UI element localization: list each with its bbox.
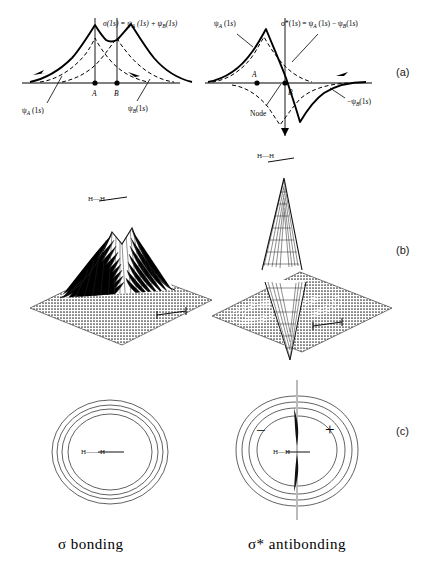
psi-a-label-right: ψA (1s) [214,19,236,29]
hh-label-bonding-b: H—H [88,195,105,203]
arrow-left-marker [33,70,46,75]
row-a-panel: σ(1s) = ψA (1s) + ψB(1s) A B ψA (1s) ψB(… [0,0,429,140]
nucleus-b-label: B [114,89,119,98]
nucleus-a-label: A [91,89,97,98]
row-c-panel [0,380,429,520]
arrow-right-marker-2 [336,72,349,76]
psi-b-curve [62,38,174,82]
sigma-star-antibonding-wavefunction-plot: σ*(1s) = ψA (1s) − ψB(1s) ψA (1s) A B No… [205,18,372,136]
sigma-star-equation: σ*(1s) = ψA (1s) − ψB(1s) [281,19,358,29]
psi-a-curve [40,38,148,82]
figure-molecular-orbitals: σ(1s) = ψA (1s) + ψB(1s) A B ψA (1s) ψB(… [0,0,429,574]
hh-label-antibonding-b: H—H [257,152,274,160]
leader-psi-b-neg [330,88,345,98]
sigma-equation-left: σ(1s) = ψA (1s) + ψB(1s) [103,19,178,29]
antibonding-3d-surface [212,158,392,360]
nucleus-a-dot-right [254,80,259,85]
axis-arrow-tip [281,128,289,136]
antibonding-contour-map [236,380,358,520]
bonding-3d-surface [30,197,212,345]
leader-sigma-star [292,34,318,62]
caption-bonding: σ bonding [58,536,124,553]
row-label-c: (c) [396,425,409,437]
nucleus-b-dot-right [282,80,287,85]
row-label-a: (a) [396,66,409,78]
sign-positive-label: + [325,420,335,440]
node-pinch-bottom [294,454,298,492]
nucleus-b-dot [114,80,119,85]
leader-psi-a-right [237,34,253,47]
contour-pos-3 [298,408,345,494]
nucleus-b-label-right: B [288,88,293,97]
leader-psi-b [137,79,150,101]
nucleus-a-label-right: A [251,70,257,79]
sigma-sum-curve [30,24,192,82]
sign-negative-label: − [256,421,266,441]
sigma-bonding-wavefunction-plot: σ(1s) = ψA (1s) + ψB(1s) A B ψA (1s) ψB(… [22,18,192,116]
row-label-b: (b) [396,244,409,256]
node-pinch-top [294,408,298,446]
psi-b-negative-label: −ψB(1s) [347,97,371,107]
node-label: Node [250,109,267,118]
leader-node [266,84,281,106]
hh-label-bonding-c: H——H [81,448,105,456]
row-b-panel [0,140,429,355]
contour-pos-1 [298,396,358,506]
psi-a-label: ψA (1s) [22,106,44,116]
hh-label-antibonding-c: H—H [273,448,290,456]
caption-antibonding: σ* antibonding [248,536,346,553]
psi-b-label: ψB(1s) [128,104,148,114]
nucleus-a-dot [92,80,97,85]
